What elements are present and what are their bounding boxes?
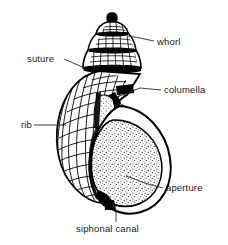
label-whorl: whorl bbox=[156, 36, 180, 47]
shell-illustration: whorl suture columella rib aperture siph… bbox=[0, 0, 228, 245]
suture-band-upper bbox=[97, 32, 129, 37]
suture-band-mid bbox=[89, 48, 137, 54]
label-columella: columella bbox=[164, 84, 206, 95]
label-siphonal-canal: siphonal canal bbox=[76, 223, 139, 234]
shell-anatomy-diagram: whorl suture columella rib aperture siph… bbox=[0, 0, 228, 245]
label-suture: suture bbox=[27, 53, 54, 64]
shell-spire bbox=[83, 13, 141, 73]
label-aperture: aperture bbox=[166, 182, 203, 193]
label-rib: rib bbox=[21, 119, 32, 130]
